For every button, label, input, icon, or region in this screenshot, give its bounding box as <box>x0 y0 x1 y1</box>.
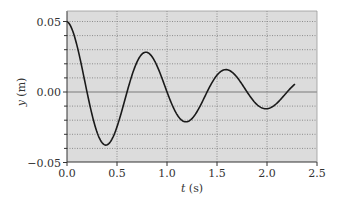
y-tick-labels: 0.050.00−0.05 <box>27 16 61 170</box>
y-axis-unit: (m) <box>15 78 28 101</box>
x-tick-labels: 0.00.51.01.52.02.5 <box>58 167 326 180</box>
x-tick-label: 2.0 <box>258 167 276 180</box>
plot-background <box>67 11 317 162</box>
plot-area <box>67 11 317 162</box>
x-tick-label: 1.5 <box>208 167 226 180</box>
x-tick-label: 1.0 <box>158 167 176 180</box>
y-axis-label: y (m) <box>15 78 28 108</box>
x-axis-unit: (s) <box>185 182 203 195</box>
x-tick-label: 2.5 <box>308 167 326 180</box>
y-tick-label: 0.00 <box>37 86 62 99</box>
chart-root: 0.00.51.01.52.02.5 0.050.00−0.05 t (s) y… <box>0 0 339 208</box>
x-axis-label: t (s) <box>181 182 203 195</box>
y-tick-label: −0.05 <box>27 157 61 170</box>
y-tick-label: 0.05 <box>37 16 62 29</box>
x-tick-label: 0.5 <box>108 167 126 180</box>
